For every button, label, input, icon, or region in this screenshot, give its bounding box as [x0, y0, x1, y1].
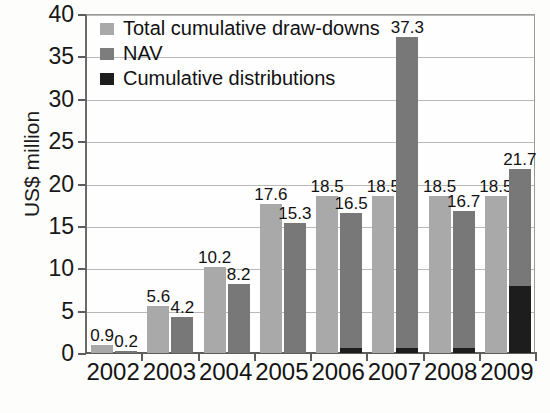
- legend-item-distributions: Cumulative distributions: [100, 66, 380, 91]
- y-axis-tick-label: 30: [0, 85, 74, 112]
- x-axis-tick-label: 2006: [310, 358, 366, 386]
- legend-item-nav: NAV: [100, 41, 380, 66]
- bar-total-cumulative-draw-downs: [260, 204, 282, 353]
- y-axis-tick-label: 15: [0, 212, 74, 239]
- y-axis-tick-label: 35: [0, 43, 74, 70]
- legend-swatch-nav: [100, 48, 114, 60]
- bar-value-label: 10.2: [195, 249, 235, 266]
- bar-cumulative-distributions: [396, 348, 418, 353]
- bar-value-label: 37.3: [387, 19, 427, 36]
- y-axis-tick-label: 40: [0, 1, 74, 28]
- x-axis-tick-label: 2004: [198, 358, 254, 386]
- chart-legend: Total cumulative draw-downs NAV Cumulati…: [100, 16, 380, 91]
- x-axis-tick: [535, 352, 537, 361]
- y-axis-tick-label: 0: [0, 340, 74, 367]
- y-axis-tick-label: 25: [0, 128, 74, 155]
- bar-total-cumulative-draw-downs: [485, 196, 507, 353]
- y-axis-tick-label: 5: [0, 297, 74, 324]
- bar-group: 18.516.7: [423, 14, 479, 353]
- x-axis-tick-label: 2008: [423, 358, 479, 386]
- bar-value-label: 4.2: [162, 299, 202, 316]
- bar-group: 18.521.7: [479, 14, 535, 353]
- bar-value-label: 16.5: [331, 195, 371, 212]
- x-axis-tick-label: 2003: [141, 358, 197, 386]
- x-axis-tick-label: 2002: [85, 358, 141, 386]
- bar-total-cumulative-draw-downs: [372, 196, 394, 353]
- bar-cumulative-distributions: [340, 348, 362, 353]
- bar-nav: [228, 284, 250, 353]
- y-axis-tick: [78, 353, 86, 355]
- legend-swatch-distributions: [100, 73, 114, 85]
- bar-cumulative-distributions: [509, 286, 531, 353]
- legend-item-draw-downs: Total cumulative draw-downs: [100, 16, 380, 41]
- x-axis-tick-label: 2005: [254, 358, 310, 386]
- bar-nav: [396, 37, 418, 353]
- legend-label-draw-downs: Total cumulative draw-downs: [123, 17, 380, 40]
- y-axis-tick-label: 20: [0, 170, 74, 197]
- bar-nav: [453, 211, 475, 353]
- y-axis-tick-label: 10: [0, 255, 74, 282]
- bar-total-cumulative-draw-downs: [316, 196, 338, 353]
- bar-value-label: 18.5: [307, 178, 347, 195]
- bar-value-label: 17.6: [251, 186, 291, 203]
- legend-label-distributions: Cumulative distributions: [123, 67, 335, 90]
- bar-value-label: 15.3: [275, 205, 315, 222]
- legend-swatch-draw-downs: [100, 23, 114, 35]
- bar-value-label: 8.2: [219, 266, 259, 283]
- bar-nav: [284, 223, 306, 353]
- bar-total-cumulative-draw-downs: [429, 196, 451, 353]
- bar-value-label: 0.2: [106, 333, 146, 350]
- bar-chart: US$ million 0510152025303540 0.90.25.64.…: [0, 0, 550, 413]
- legend-label-nav: NAV: [123, 42, 163, 65]
- bar-value-label: 16.7: [444, 193, 484, 210]
- bar-nav: [115, 351, 137, 353]
- bar-nav: [340, 213, 362, 353]
- x-axis-tick-label: 2007: [366, 358, 422, 386]
- bar-cumulative-distributions: [453, 348, 475, 353]
- bar-nav: [171, 317, 193, 353]
- bar-value-label: 21.7: [500, 151, 540, 168]
- x-axis-tick-label: 2009: [479, 358, 535, 386]
